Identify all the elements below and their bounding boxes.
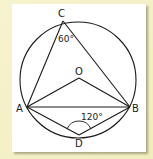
segment-ob bbox=[79, 78, 130, 107]
point-label-c: C bbox=[58, 8, 65, 19]
angle-arc-d bbox=[67, 121, 91, 129]
angle-label-d: 120° bbox=[81, 112, 103, 122]
segment-oa bbox=[27, 78, 79, 107]
segment-ad bbox=[27, 107, 79, 135]
figure-frame: C O A B D 60° 120° bbox=[0, 0, 153, 159]
circle-diagram: C O A B D 60° 120° bbox=[0, 0, 153, 159]
angle-label-c: 60° bbox=[58, 34, 74, 44]
point-label-d: D bbox=[75, 138, 83, 149]
point-label-o: O bbox=[75, 66, 83, 77]
point-label-b: B bbox=[132, 103, 139, 114]
point-label-a: A bbox=[16, 103, 23, 114]
